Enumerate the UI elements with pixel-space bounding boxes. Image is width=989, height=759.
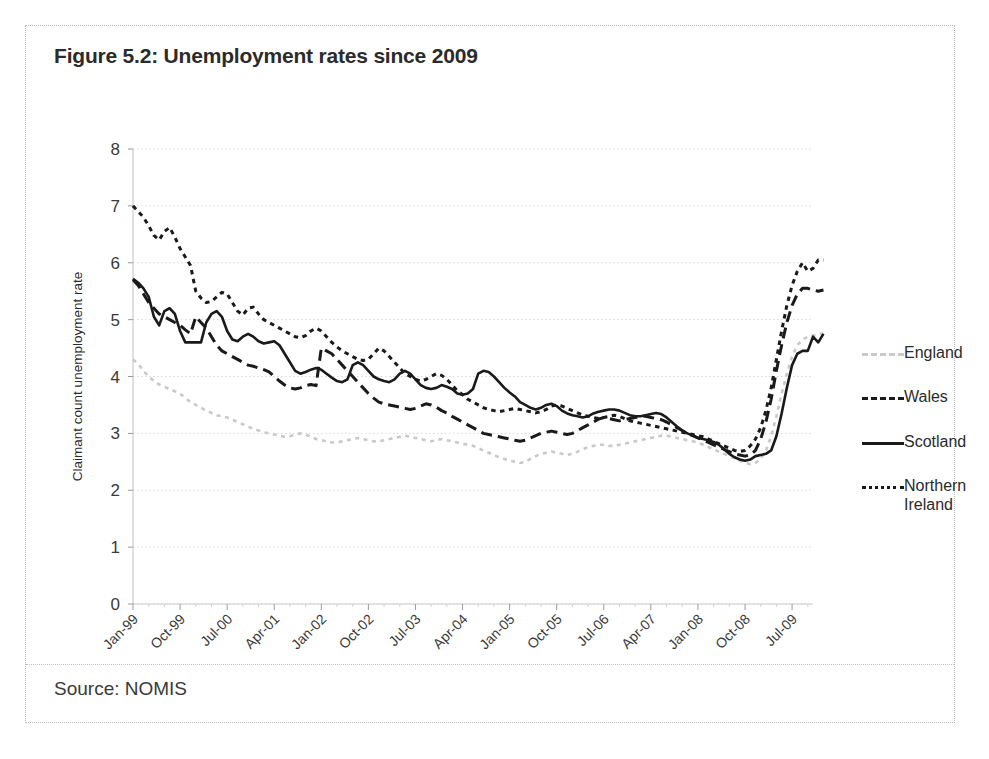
- legend-item-northern-ireland[interactable]: Northern Ireland: [862, 477, 989, 514]
- x-tick-label: Oct-02: [335, 611, 376, 652]
- x-tick-label: Jul-03: [385, 611, 423, 649]
- y-tick-label: 4: [111, 368, 120, 387]
- source-note: Source: NOMIS: [54, 678, 187, 700]
- y-tick-label: 0: [111, 595, 120, 614]
- y-tick-label: 7: [111, 197, 120, 216]
- y-tick-label: 1: [111, 538, 120, 557]
- x-tick-label: Apr-01: [241, 611, 282, 652]
- legend-label-scotland: Scotland: [904, 433, 966, 451]
- series-line-wales: [133, 280, 823, 456]
- legend-label-northern-ireland: Northern Ireland: [904, 477, 966, 514]
- legend-item-wales[interactable]: Wales: [862, 388, 989, 406]
- legend-label-wales: Wales: [904, 388, 948, 406]
- legend-line-scotland-icon: [862, 436, 904, 450]
- x-tick-label: Jan-99: [100, 611, 142, 653]
- y-tick-label: 6: [111, 254, 120, 273]
- x-tick-label: Jan-05: [476, 611, 518, 653]
- x-tick-label: Jul-06: [574, 611, 612, 649]
- x-tick-label: Jan-08: [664, 611, 706, 653]
- legend-line-england-icon: [862, 347, 904, 361]
- legend-line-northern-ireland-icon: [862, 480, 904, 494]
- figure-title: Figure 5.2: Unemployment rates since 200…: [54, 44, 478, 68]
- x-tick-label: Jul-00: [197, 611, 235, 649]
- chart-legend: England Wales Scotland Northern Ireland: [862, 344, 989, 540]
- figure-container: Figure 5.2: Unemployment rates since 200…: [25, 25, 955, 723]
- source-divider: [26, 664, 954, 665]
- legend-label-england: England: [904, 344, 963, 362]
- y-tick-label: 3: [111, 424, 120, 443]
- legend-line-wales-icon: [862, 391, 904, 405]
- y-tick-label: 8: [111, 140, 120, 159]
- x-tick-label: Oct-08: [712, 611, 753, 652]
- y-tick-label: 2: [111, 481, 120, 500]
- legend-item-england[interactable]: England: [862, 344, 989, 362]
- x-tick-label: Jul-09: [762, 611, 800, 649]
- x-tick-label: Apr-04: [430, 611, 471, 652]
- x-tick-label: Oct-99: [147, 611, 188, 652]
- chart-plot-area: 012345678Claimant count unemployment rat…: [26, 86, 956, 661]
- line-chart-svg: 012345678Claimant count unemployment rat…: [26, 86, 956, 661]
- series-line-northern-ireland: [133, 206, 823, 452]
- x-tick-label: Oct-05: [524, 611, 565, 652]
- x-tick-label: Apr-07: [618, 611, 659, 652]
- x-tick-label: Jan-02: [288, 611, 330, 653]
- y-tick-label: 5: [111, 311, 120, 330]
- y-axis-title: Claimant count unemployment rate: [70, 272, 85, 481]
- legend-item-scotland[interactable]: Scotland: [862, 433, 989, 451]
